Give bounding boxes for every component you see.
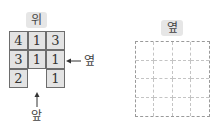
top-view-label: 위 bbox=[26, 12, 47, 28]
answer-cell bbox=[136, 42, 154, 61]
answer-cell bbox=[191, 98, 209, 117]
side-view-label: 옆 bbox=[84, 54, 95, 68]
grid-cell-empty bbox=[28, 69, 46, 88]
side-view-answer-grid bbox=[135, 41, 210, 117]
answer-cell bbox=[191, 42, 209, 61]
answer-cell bbox=[136, 61, 154, 80]
grid-cell: 1 bbox=[28, 50, 46, 69]
grid-cell: 3 bbox=[46, 31, 65, 50]
answer-cell bbox=[191, 79, 209, 98]
side-view-title: 옆 bbox=[161, 20, 183, 36]
grid-cell: 1 bbox=[46, 69, 65, 88]
grid-cell: 4 bbox=[9, 31, 28, 50]
answer-cell bbox=[154, 79, 172, 98]
answer-cell bbox=[136, 98, 154, 117]
grid-cell: 1 bbox=[28, 31, 46, 50]
answer-cell bbox=[173, 98, 191, 117]
up-arrow-icon bbox=[33, 92, 41, 108]
answer-cell bbox=[154, 98, 172, 117]
top-view-grid: 4 1 3 3 1 1 2 1 bbox=[9, 31, 65, 88]
answer-cell bbox=[154, 42, 172, 61]
grid-cell: 3 bbox=[9, 50, 28, 69]
grid-cell: 2 bbox=[9, 69, 28, 88]
answer-cell bbox=[136, 79, 154, 98]
grid-cell: 1 bbox=[46, 50, 65, 69]
answer-cell bbox=[173, 42, 191, 61]
answer-cell bbox=[191, 61, 209, 80]
answer-cell bbox=[154, 61, 172, 80]
answer-cell bbox=[173, 79, 191, 98]
answer-cell bbox=[173, 61, 191, 80]
left-arrow-icon bbox=[66, 57, 82, 65]
front-view-label: 앞 bbox=[31, 109, 42, 123]
